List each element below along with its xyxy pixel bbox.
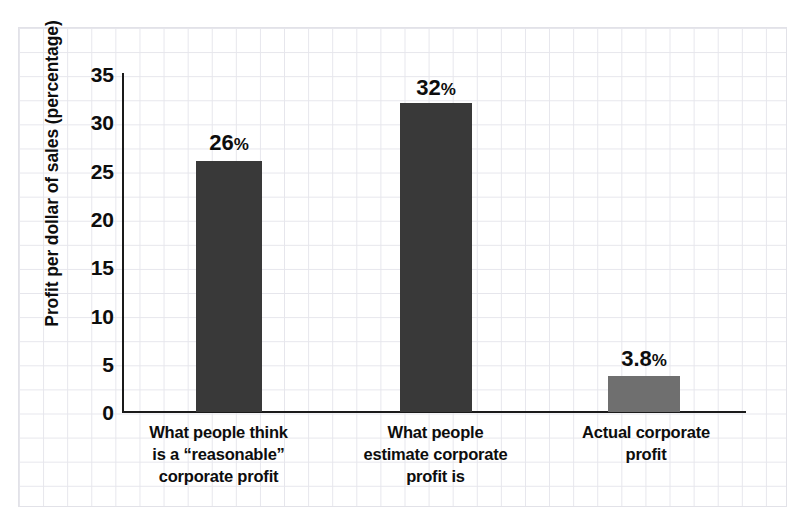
category-label-1-line-2: is a “reasonable” <box>126 444 311 466</box>
bar-group-estimated-profit: 32% <box>400 74 472 412</box>
chart-figure: Profit per dollar of sales (percentage) … <box>0 0 808 530</box>
bar-3 <box>608 376 680 412</box>
category-label-1-line-3: corporate profit <box>126 466 311 488</box>
y-tick-0: 0 <box>66 402 114 423</box>
category-label-3-line-2: profit <box>562 444 730 466</box>
category-label-2-line-2: estimate corporate <box>343 444 528 466</box>
y-tick-5: 5 <box>66 353 114 374</box>
bar-value-label-2: 32% <box>356 77 516 99</box>
bar-1 <box>196 161 262 412</box>
bar-value-unit-3: % <box>652 351 667 370</box>
bar-group-reasonable-profit: 26% <box>196 74 262 412</box>
y-tick-35: 35 <box>66 64 114 85</box>
category-label-3: Actual corporate profit <box>562 422 730 466</box>
category-label-2: What people estimate corporate profit is <box>343 422 528 487</box>
bar-value-number-1: 26 <box>209 130 233 155</box>
category-label-1: What people think is a “reasonable” corp… <box>126 422 311 487</box>
y-tick-10: 10 <box>66 305 114 326</box>
y-axis-tick-labels: 35 30 25 20 15 10 5 0 <box>58 74 114 412</box>
y-tick-30: 30 <box>66 112 114 133</box>
bar-value-number-2: 32 <box>416 75 440 100</box>
plot-area: 26% 32% 3.8% <box>122 74 746 412</box>
bar-group-actual-profit: 3.8% <box>608 74 680 412</box>
bar-value-unit-1: % <box>234 135 249 154</box>
category-label-3-line-1: Actual corporate <box>562 422 730 444</box>
bar-value-number-3: 3.8 <box>621 346 652 371</box>
y-tick-15: 15 <box>66 257 114 278</box>
category-label-2-line-1: What people <box>343 422 528 444</box>
bar-value-label-3: 3.8% <box>564 348 724 370</box>
y-tick-20: 20 <box>66 208 114 229</box>
category-label-1-line-1: What people think <box>126 422 311 444</box>
category-label-2-line-3: profit is <box>343 466 528 488</box>
y-tick-25: 25 <box>66 160 114 181</box>
bar-2 <box>400 103 472 412</box>
bar-value-unit-2: % <box>441 80 456 99</box>
bar-value-label-1: 26% <box>149 132 309 154</box>
